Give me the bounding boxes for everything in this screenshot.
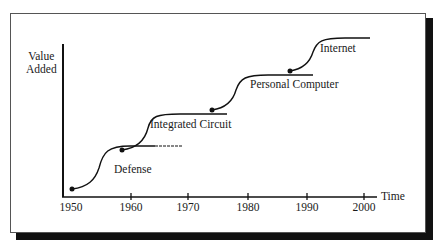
x-tick-1960: 1960 [120, 201, 143, 213]
figure-caption [10, 244, 370, 251]
x-tick-1970: 1970 [177, 201, 200, 213]
label-integrated-circuit: Integrated Circuit [150, 118, 231, 131]
label-internet: Internet [320, 42, 356, 55]
label-defense: Defense [114, 163, 152, 176]
x-tick-1990: 1990 [296, 201, 319, 213]
y-axis-label-line2: Added [26, 63, 57, 76]
x-tick-1980: 1980 [237, 201, 260, 213]
y-axis-label: Value Added [26, 50, 57, 76]
label-personal-computer: Personal Computer [250, 78, 338, 91]
x-tick-1950: 1950 [60, 201, 83, 213]
x-tick-2000: 2000 [353, 201, 376, 213]
x-axis-label: Time [381, 190, 405, 203]
y-axis-label-line1: Value [26, 50, 57, 63]
